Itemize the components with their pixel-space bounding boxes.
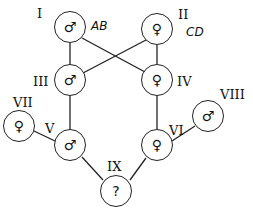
label-V: V xyxy=(45,122,54,135)
pedigree-diagram: ♂ ♀ ♂ ♀ ♀ ♂ ♂ ♀ ? I AB II CD III IV VII … xyxy=(0,0,253,213)
male-icon: ♂ xyxy=(64,137,77,153)
label-VII: VII xyxy=(13,96,33,109)
male-icon: ♂ xyxy=(202,108,215,124)
male-icon: ♂ xyxy=(64,72,77,88)
label-IV: IV xyxy=(177,75,192,88)
individual-II: ♀ xyxy=(141,13,173,45)
label-VIII: VIII xyxy=(220,88,245,101)
unknown-icon: ? xyxy=(112,183,119,199)
label-VI: VI xyxy=(169,124,184,137)
individual-VIII: ♂ xyxy=(192,100,224,132)
genotype-I: AB xyxy=(91,20,107,32)
genotype-II: CD xyxy=(186,26,204,38)
male-icon: ♂ xyxy=(64,19,77,35)
label-II: II xyxy=(178,8,188,21)
female-icon: ♀ xyxy=(152,137,162,153)
label-IX: IX xyxy=(107,160,121,173)
individual-IV: ♀ xyxy=(141,64,173,96)
individual-III: ♂ xyxy=(54,64,86,96)
label-I: I xyxy=(37,7,42,20)
individual-V: ♂ xyxy=(54,129,86,161)
female-icon: ♀ xyxy=(14,118,24,134)
individual-VII: ♀ xyxy=(3,110,35,142)
label-III: III xyxy=(33,75,48,88)
female-icon: ♀ xyxy=(152,21,162,37)
individual-IX: ? xyxy=(100,175,132,207)
individual-I: ♂ xyxy=(54,11,86,43)
female-icon: ♀ xyxy=(152,72,162,88)
